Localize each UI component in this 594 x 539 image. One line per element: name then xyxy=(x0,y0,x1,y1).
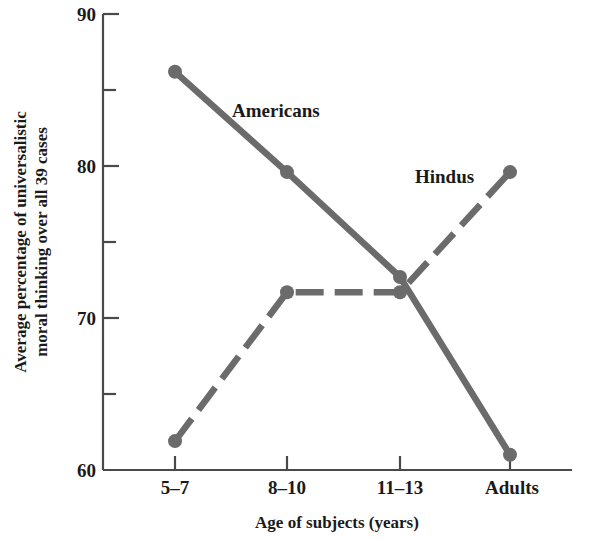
hindus-line xyxy=(175,172,510,441)
series-label-americans: Americans xyxy=(232,100,320,121)
data-point xyxy=(503,448,517,462)
x-tick-label-adults: Adults xyxy=(485,477,539,498)
y-axis-title-line1: Average percentage of universalistic xyxy=(11,111,30,373)
data-point xyxy=(503,165,517,179)
chart-figure: 90 80 70 60 5–7 8–10 11–13 Adults Age of… xyxy=(0,0,594,539)
y-tick-label-90: 90 xyxy=(77,4,96,25)
line-chart-canvas: 90 80 70 60 5–7 8–10 11–13 Adults Age of… xyxy=(0,0,594,539)
data-point xyxy=(280,285,294,299)
data-point xyxy=(393,270,407,284)
x-tick-label-11-13: 11–13 xyxy=(377,477,423,498)
series-label-hindus: Hindus xyxy=(415,166,474,187)
x-tick-label-8-10: 8–10 xyxy=(268,477,306,498)
data-point xyxy=(168,434,182,448)
y-tick-label-80: 80 xyxy=(77,156,96,177)
hindus-markers xyxy=(168,165,517,448)
data-point xyxy=(168,65,182,79)
data-point xyxy=(280,165,294,179)
series-hindus xyxy=(168,165,517,448)
y-axis-title-line2: moral thinking over all 39 cases xyxy=(32,127,51,357)
series-americans xyxy=(168,65,517,462)
americans-markers xyxy=(168,65,517,462)
x-axis-title: Age of subjects (years) xyxy=(255,513,419,532)
y-tick-label-70: 70 xyxy=(77,308,96,329)
y-tick-label-60: 60 xyxy=(77,460,96,481)
americans-line xyxy=(175,72,510,455)
x-tick-label-5-7: 5–7 xyxy=(161,477,190,498)
